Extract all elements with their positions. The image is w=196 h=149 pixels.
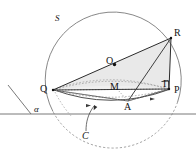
- label-point-a: A: [124, 102, 131, 112]
- label-vertex-q: Q: [40, 84, 47, 94]
- center-point-o-dot: [113, 63, 116, 66]
- sphere-outline-lower-hidden: [53, 102, 178, 148]
- arc-direction-arrow-left: [86, 104, 91, 107]
- geometry-figure: S O Q R Γ P M A α C: [0, 0, 196, 149]
- curve-c-leader-arrowhead: [94, 105, 98, 110]
- label-sphere-s: S: [55, 14, 60, 23]
- vertex-dot-q: [52, 89, 54, 91]
- label-midpoint-m: M: [110, 82, 119, 92]
- label-vertex-p: P: [174, 85, 180, 95]
- label-vertex-gamma: Γ: [163, 79, 169, 89]
- geometry-canvas: [0, 0, 196, 149]
- tangent-drop-curve: [55, 92, 72, 117]
- arc-direction-arrow-right: [150, 98, 155, 101]
- plane-corner-edge: [8, 85, 31, 114]
- curve-c-leader-line: [86, 106, 94, 131]
- label-vertex-r: R: [174, 28, 181, 38]
- label-curve-c: C: [82, 131, 89, 141]
- vertex-dot-r: [170, 37, 172, 39]
- label-center-o: O: [106, 56, 113, 66]
- label-plane-alpha: α: [34, 105, 39, 114]
